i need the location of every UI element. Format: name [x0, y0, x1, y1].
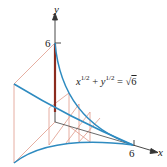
curve-equation: x1/2 + y1/2 = √6: [76, 74, 137, 87]
base-curve: [55, 43, 133, 145]
eq-exp-y: 1/2: [105, 74, 114, 82]
y-tick-label: 6: [45, 38, 51, 49]
eq-exp-x: 1/2: [81, 74, 90, 82]
x-axis: [133, 140, 158, 154]
x-axis-label: x: [158, 147, 163, 158]
y-axis-label: y: [54, 4, 59, 15]
top-edge-curve: [14, 84, 133, 145]
eq-equals: =: [117, 76, 123, 87]
eq-sqrt-value: 6: [131, 76, 136, 87]
x-tick-label: 6: [129, 148, 135, 159]
eq-plus: +: [92, 76, 98, 87]
